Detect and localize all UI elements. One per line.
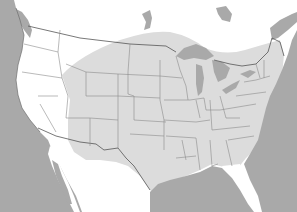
us-range-map xyxy=(0,0,297,212)
